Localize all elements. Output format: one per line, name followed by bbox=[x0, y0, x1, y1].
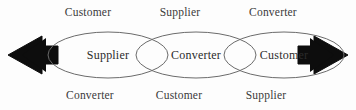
edge-label-bottom-2: Customer bbox=[156, 89, 202, 101]
node-label-customer: Customer bbox=[260, 48, 308, 63]
node-label-converter: Converter bbox=[171, 48, 221, 63]
diagram-canvas: Customer Supplier Converter Supplier Con… bbox=[0, 0, 356, 110]
edge-label-top-1: Customer bbox=[65, 6, 111, 18]
edge-label-bottom-1: Converter bbox=[66, 89, 114, 101]
edge-label-top-3: Converter bbox=[249, 6, 297, 18]
edge-label-top-2: Supplier bbox=[160, 6, 201, 18]
arrow-left-icon bbox=[8, 36, 58, 74]
node-label-supplier: Supplier bbox=[87, 48, 129, 63]
edge-label-bottom-3: Supplier bbox=[246, 89, 287, 101]
